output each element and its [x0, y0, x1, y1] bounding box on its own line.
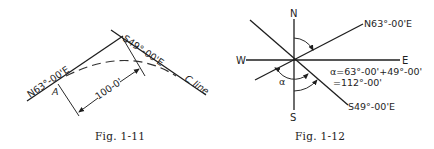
dimension-arrow-right: [120, 69, 139, 82]
label-chord-length: 100-0': [93, 76, 124, 102]
caption-fig-1-12: Fig. 1-12: [295, 130, 345, 142]
label-north: N: [290, 8, 297, 19]
extension-line-a: [58, 84, 79, 116]
label-bearing-se: S49°-00'E: [348, 101, 395, 112]
figure-1-12: N S W E N63°-00'E S49°-00'E α α=63°-00'+…: [236, 8, 422, 142]
label-bearing-ne: N63°-00'E: [364, 18, 412, 29]
label-formula-line2: =112°-00': [333, 77, 382, 88]
label-centerline: C line: [183, 73, 211, 97]
dimension-arrow-left: [79, 98, 98, 112]
label-formula-line1: α=63°-00'+49°-00': [330, 66, 422, 77]
label-south: S: [290, 112, 296, 123]
angle-arc-s49: [294, 80, 317, 91]
angle-arc-n63: [294, 38, 313, 50]
label-point-a: A: [51, 86, 59, 97]
figure-1-11: N63°-00'E A S49°-00'E 100-0' C line Fig.…: [25, 30, 211, 142]
label-n63e: N63°-00'E: [25, 64, 71, 100]
caption-fig-1-11: Fig. 1-11: [95, 130, 145, 142]
label-s49e: S49°-00'E: [121, 33, 166, 68]
label-alpha: α: [279, 76, 285, 87]
bearing-line-s49e: [250, 20, 348, 105]
label-east: E: [402, 55, 408, 66]
figures-canvas: N63°-00'E A S49°-00'E 100-0' C line Fig.…: [0, 0, 434, 149]
label-west: W: [236, 55, 246, 66]
